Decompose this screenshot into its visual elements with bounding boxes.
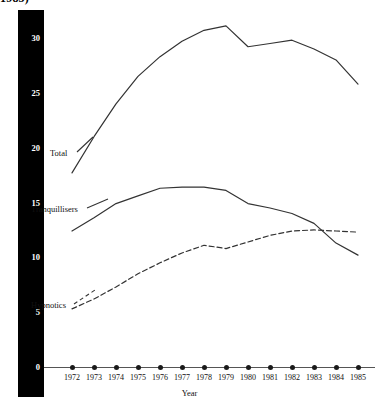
- x-tick-marker: [70, 365, 75, 370]
- x-tick-marker: [114, 365, 119, 370]
- y-tick-label: 25: [18, 88, 44, 99]
- series-line-total: [72, 26, 358, 173]
- leader-line-tranquillisers: [87, 199, 108, 208]
- chart-figure: 1985) Benzodiazepine prescription items …: [0, 0, 379, 407]
- leader-line-hypnotics: [74, 290, 95, 304]
- x-tick-marker: [92, 365, 97, 370]
- x-tick-marker: [158, 365, 163, 370]
- series-label-total: Total: [50, 148, 67, 158]
- y-tick-label: 10: [18, 252, 44, 263]
- x-tick-marker: [202, 365, 207, 370]
- series-canvas: [44, 10, 379, 367]
- x-tick-label: 1985: [338, 373, 378, 382]
- x-tick-marker: [312, 365, 317, 370]
- x-tick-marker: [246, 365, 251, 370]
- x-tick-marker: [334, 365, 339, 370]
- y-tick-label: 20: [18, 143, 44, 154]
- x-axis-label: Year: [0, 388, 379, 398]
- x-tick-marker: [224, 365, 229, 370]
- series-label-tranquillisers: Tranquillisers: [31, 204, 78, 214]
- x-tick-marker: [180, 365, 185, 370]
- series-line-hypnotics: [72, 230, 358, 309]
- x-tick-marker: [290, 365, 295, 370]
- chart-title: 1985): [0, 0, 29, 6]
- x-tick-marker: [136, 365, 141, 370]
- y-tick-label: 0: [18, 362, 44, 373]
- leader-line-total: [77, 137, 93, 152]
- series-label-hypnotics: Hypnotics: [31, 300, 66, 310]
- x-tick-marker: [356, 365, 361, 370]
- x-tick-marker: [268, 365, 273, 370]
- series-line-tranquillisers: [72, 187, 358, 255]
- plot-area: [44, 10, 379, 367]
- y-tick-label: 30: [18, 33, 44, 44]
